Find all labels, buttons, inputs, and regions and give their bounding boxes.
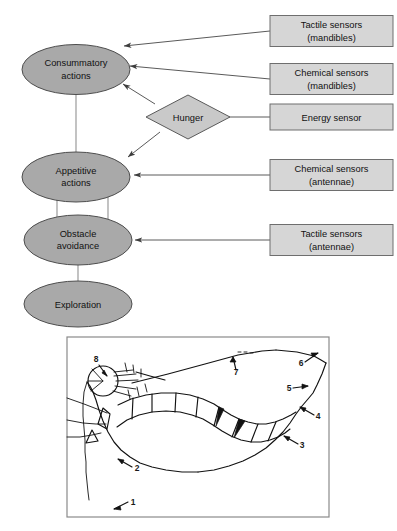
sensor-box-chemical-antennae-line2: (antennae): [309, 177, 354, 187]
svg-text:1: 1: [131, 497, 136, 507]
sensor-box-chemical-antennae[interactable]: Chemical sensors (antennae): [270, 160, 393, 191]
node-appetitive-line1: Appetitive: [56, 166, 97, 176]
sensor-box-tactile-mandibles[interactable]: Tactile sensors (mandibles): [270, 16, 393, 47]
sensor-box-chemical-mandibles-line1: Chemical sensors: [295, 68, 369, 78]
node-consummatory[interactable]: Consummatory actions: [22, 45, 130, 95]
sensor-box-energy-sensor-line1: Energy sensor: [302, 113, 362, 123]
node-appetitive-line2: actions: [61, 178, 91, 188]
sensor-box-tactile-antennae-line2: (antennae): [309, 242, 354, 252]
sensor-box-chemical-mandibles[interactable]: Chemical sensors (mandibles): [270, 64, 393, 95]
figure-container: Consummatory actions Appetitive actions …: [0, 0, 397, 531]
node-obstacle-line2: avoidance: [57, 241, 99, 251]
svg-text:2: 2: [135, 463, 140, 473]
connector-tactile-mandibles: [124, 31, 270, 46]
svg-text:6: 6: [299, 358, 304, 368]
sensor-box-energy-sensor[interactable]: Energy sensor: [270, 104, 393, 130]
connector-chemical-mandibles: [130, 66, 270, 79]
svg-text:5: 5: [287, 383, 292, 393]
edge-hunger-consummatory: [123, 84, 155, 104]
sensor-box-chemical-mandibles-line2: (mandibles): [307, 81, 356, 91]
sensor-box-tactile-antennae-line1: Tactile sensors: [301, 229, 363, 239]
svg-text:4: 4: [316, 411, 321, 421]
sensor-box-tactile-mandibles-line1: Tactile sensors: [301, 20, 363, 30]
sensor-box-tactile-antennae[interactable]: Tactile sensors (antennae): [270, 225, 393, 256]
node-consummatory-line2: actions: [61, 71, 91, 81]
node-hunger-label: Hunger: [173, 113, 204, 123]
sensor-box-tactile-mandibles-line2: (mandibles): [307, 33, 356, 43]
svg-text:3: 3: [300, 440, 305, 450]
node-appetitive[interactable]: Appetitive actions: [22, 152, 130, 202]
svg-text:8: 8: [94, 354, 99, 364]
sensor-box-chemical-antennae-line1: Chemical sensors: [295, 164, 369, 174]
node-hunger[interactable]: Hunger: [146, 95, 230, 139]
edge-hunger-appetitive: [128, 132, 160, 157]
node-obstacle-line1: Obstacle: [60, 229, 97, 239]
node-obstacle-avoidance[interactable]: Obstacle avoidance: [24, 215, 132, 265]
node-consummatory-line1: Consummatory: [44, 58, 107, 68]
node-exploration[interactable]: Exploration: [24, 281, 132, 327]
node-exploration-line1: Exploration: [55, 300, 102, 310]
illustration-panel: 8 7 6 5 4 3 2: [67, 337, 329, 517]
